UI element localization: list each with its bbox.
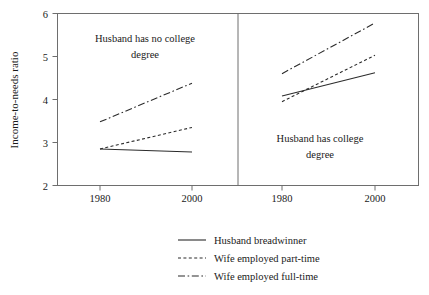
series-line-no-college-1 (100, 127, 192, 149)
panel-right-label-line2: degree (306, 149, 334, 160)
y-tick-label-6: 6 (43, 9, 48, 20)
y-tick-label-4: 4 (43, 95, 49, 106)
y-tick-label-2: 2 (43, 181, 48, 192)
x-tick-label-right-2000: 2000 (365, 193, 386, 204)
panel-left-label-line2: degree (131, 49, 159, 60)
y-axis-ticks (53, 14, 58, 186)
legend-label-0: Husband breadwinner (214, 235, 307, 246)
chart-svg: 6 5 4 3 2 Income-to-needs ratio 1980 200… (0, 0, 429, 295)
chart-legend: Husband breadwinner Wife employed part-t… (178, 235, 320, 282)
y-tick-label-3: 3 (43, 138, 48, 149)
x-tick-label-right-1980: 1980 (272, 193, 293, 204)
series-line-no-college-0 (100, 149, 192, 152)
x-tick-label-left-2000: 2000 (182, 193, 203, 204)
series-line-college-2 (282, 23, 375, 74)
legend-label-2: Wife employed full-time (214, 271, 318, 282)
series-line-college-0 (282, 73, 375, 96)
panel-right-label-line1: Husband has college (277, 133, 364, 144)
panel-left-label-line1: Husband has no college (95, 33, 195, 44)
series-line-college-1 (282, 55, 375, 101)
series-line-no-college-2 (100, 83, 192, 122)
y-axis-title: Income-to-needs ratio (8, 51, 20, 148)
x-tick-label-left-1980: 1980 (90, 193, 111, 204)
x-axis-ticks (100, 186, 375, 191)
legend-label-1: Wife employed part-time (214, 253, 320, 264)
chart-figure: 6 5 4 3 2 Income-to-needs ratio 1980 200… (0, 0, 429, 295)
y-tick-label-5: 5 (43, 52, 48, 63)
